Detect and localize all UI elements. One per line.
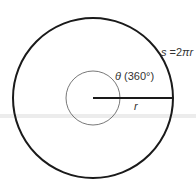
circle-diagram: s =2πr θ (360°) r bbox=[0, 0, 196, 184]
radius-label: r bbox=[134, 100, 139, 112]
arc-length-label: s =2πr bbox=[161, 46, 194, 58]
angle-label: θ (360°) bbox=[115, 70, 154, 82]
